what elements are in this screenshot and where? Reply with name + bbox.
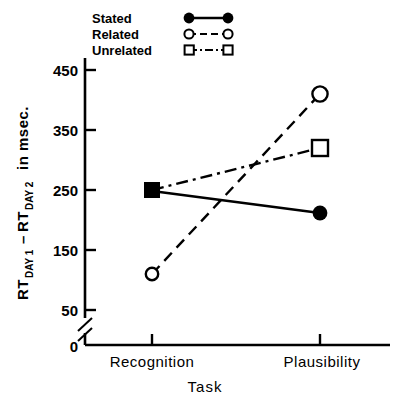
legend-label-stated: Stated: [92, 11, 132, 26]
y-axis-ticks: [85, 70, 96, 310]
legend-label-unrelated: Unrelated: [92, 43, 152, 58]
y-axis-title-tail: in msec.: [14, 106, 31, 170]
data-point-related-plausibility: [312, 86, 327, 101]
y-axis-title-rt2: RT: [14, 211, 31, 232]
x-axis-ticks: [152, 334, 320, 345]
data-point-stated-plausibility: [313, 206, 328, 221]
open-square-icon: [223, 45, 232, 54]
y-axis-title-sub1: DAY 1: [24, 249, 35, 278]
series-stated: [152, 191, 327, 220]
open-circle-icon: [223, 29, 232, 38]
figure-container: Stated Related Unrelated: [0, 0, 395, 403]
legend-sample-unrelated: [185, 45, 233, 54]
x-axis-title: Task: [188, 378, 223, 395]
line-chart: Stated Related Unrelated: [0, 0, 395, 403]
series-related: [146, 86, 328, 280]
filled-square-marker: [144, 182, 160, 198]
data-point-related-recognition: [146, 268, 158, 280]
filled-circle-icon: [184, 13, 195, 24]
legend: Stated Related Unrelated: [92, 11, 233, 58]
legend-sample-stated: [184, 13, 234, 24]
open-square-icon: [185, 45, 194, 54]
y-tick-label-50: 50: [61, 302, 78, 319]
x-axis-tick-labels: Recognition Plausibility Task: [110, 353, 361, 395]
y-axis-title-minus: –: [14, 235, 31, 244]
filled-circle-icon: [223, 13, 234, 24]
data-point-unrelated-plausibility: [312, 140, 328, 156]
open-circle-icon: [184, 29, 193, 38]
y-axis-title: RT DAY 1 – RT DAY 2 in msec.: [14, 106, 35, 300]
x-tick-label-plausibility: Plausibility: [284, 353, 361, 370]
series-stated-line: [152, 191, 320, 213]
y-tick-label-0: 0: [70, 338, 78, 355]
y-tick-label-350: 350: [53, 122, 78, 139]
data-point-overlap-recognition: [144, 182, 160, 198]
y-axis-tick-labels: 450 350 250 150 50 0: [53, 62, 78, 355]
series-unrelated: [152, 140, 328, 190]
legend-label-related: Related: [92, 27, 139, 42]
x-tick-label-recognition: Recognition: [110, 353, 195, 370]
y-tick-label-450: 450: [53, 62, 78, 79]
y-tick-label-150: 150: [53, 242, 78, 259]
legend-sample-related: [184, 29, 232, 38]
y-axis-title-sub2: DAY 2: [24, 181, 35, 210]
y-axis-title-rt1: RT: [14, 279, 31, 300]
series-unrelated-line: [152, 148, 320, 190]
y-tick-label-250: 250: [53, 182, 78, 199]
